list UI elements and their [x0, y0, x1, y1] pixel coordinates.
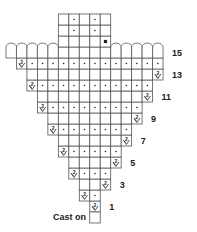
chart-cell-dot [121, 80, 131, 91]
row-label-13: 13 [172, 70, 182, 80]
row-label-7: 7 [141, 136, 146, 146]
row-label-9: 9 [151, 114, 156, 124]
chart-cell-blank [69, 113, 79, 124]
chart-cell-blank [90, 69, 100, 80]
chart-cell-blank [90, 113, 100, 124]
purl-dot-icon [31, 63, 33, 65]
chart-cell-dot [58, 102, 68, 113]
chart-cell-dot [58, 58, 68, 69]
chart-cell-blank [111, 135, 121, 146]
row-label-15: 15 [172, 48, 182, 58]
row-label-3: 3 [120, 180, 125, 190]
chart-cell-blank [79, 91, 89, 102]
chart-cell-dot [90, 58, 100, 69]
chart-cell-blank [48, 69, 58, 80]
chart-cell-dot [90, 80, 100, 91]
row-label-11: 11 [162, 92, 172, 102]
purl-dot-icon [94, 30, 96, 32]
filled-square-icon [104, 40, 107, 43]
purl-dot-icon [84, 173, 86, 175]
chart-cell-bobble_square [100, 36, 110, 47]
chart-cell-blank [37, 69, 47, 80]
svg-text:2: 2 [104, 180, 107, 186]
chart-cell-blank [90, 47, 100, 58]
chart-cell-dot [48, 80, 58, 91]
chart-cell-blank [48, 91, 58, 102]
chart-cell-blank [79, 157, 89, 168]
svg-text:2: 2 [125, 136, 128, 142]
purl-dot-icon [136, 85, 138, 87]
chart-cell-blank [100, 113, 110, 124]
chart-cell-blank [58, 47, 68, 58]
chart-cell-dot [69, 58, 79, 69]
chart-cell-blank [58, 69, 68, 80]
chart-cell-dot [79, 58, 89, 69]
chart-cell-arc [37, 43, 47, 58]
chart-cell-blank [100, 14, 110, 25]
chart-cell-inc: 2 [48, 124, 58, 135]
chart-cell-blank [79, 14, 89, 25]
row-label-1: 1 [109, 202, 114, 212]
purl-dot-icon [115, 129, 117, 131]
purl-dot-icon [94, 85, 96, 87]
purl-dot-icon [94, 151, 96, 153]
purl-dot-icon [105, 63, 107, 65]
chart-cell-blank [111, 113, 121, 124]
purl-dot-icon [84, 151, 86, 153]
chart-cell-dot [37, 58, 47, 69]
chart-cell-dot [69, 14, 79, 25]
chart-cell-inc: 2 [69, 168, 79, 179]
purl-dot-icon [73, 30, 75, 32]
purl-dot-icon [147, 85, 149, 87]
chart-cell-dot [69, 124, 79, 135]
chart-cell-blank [111, 69, 121, 80]
chart-cell-dot [69, 102, 79, 113]
chart-cell-blank [58, 91, 68, 102]
chart-cell-inc: 2 [100, 179, 110, 190]
purl-dot-icon [84, 63, 86, 65]
chart-cell-dot [90, 190, 100, 201]
chart-cell-blank [69, 47, 79, 58]
purl-dot-icon [126, 63, 128, 65]
chart-cell-dot [90, 14, 100, 25]
chart-cell-dot [100, 80, 110, 91]
chart-cell-blank [37, 91, 47, 102]
purl-dot-icon [84, 85, 86, 87]
chart-cell-dot [100, 146, 110, 157]
purl-dot-icon [73, 19, 75, 21]
purl-dot-icon [126, 107, 128, 109]
purl-dot-icon [63, 129, 65, 131]
purl-dot-icon [126, 129, 128, 131]
chart-cell-dot [100, 124, 110, 135]
chart-cell-inc: 2 [16, 58, 26, 69]
svg-text:2: 2 [115, 158, 118, 164]
chart-cell-blank [69, 157, 79, 168]
chart-cell-arc [121, 43, 131, 58]
chart-cell-arc [48, 43, 58, 58]
chart-cell-dot [142, 58, 152, 69]
chart-cell-inc: 2 [58, 146, 68, 157]
chart-cell-dot [79, 124, 89, 135]
svg-text:2: 2 [146, 92, 149, 98]
chart-cell-dot [90, 168, 100, 179]
chart-cell-blank [58, 36, 68, 47]
chart-cell-dot [121, 124, 131, 135]
chart-cell-arc [132, 43, 142, 58]
purl-dot-icon [94, 195, 96, 197]
purl-dot-icon [105, 151, 107, 153]
purl-dot-icon [115, 151, 117, 153]
svg-text:2: 2 [62, 147, 65, 153]
purl-dot-icon [115, 85, 117, 87]
chart-cell-dot [100, 58, 110, 69]
purl-dot-icon [42, 63, 44, 65]
purl-dot-icon [157, 63, 159, 65]
purl-dot-icon [84, 107, 86, 109]
purl-dot-icon [52, 63, 54, 65]
chart-cell-dot [90, 25, 100, 36]
chart-cell-blank [132, 69, 142, 80]
chart-cell-dot [111, 58, 121, 69]
chart-cell-blank [142, 69, 152, 80]
purl-dot-icon [63, 85, 65, 87]
knitting-chart: 22222222222222 [0, 0, 197, 232]
chart-cell-inc: 2 [121, 135, 131, 146]
